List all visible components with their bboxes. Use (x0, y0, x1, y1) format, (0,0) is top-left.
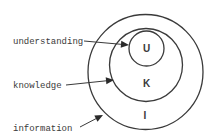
arrow-understanding-head-icon (121, 41, 129, 48)
label-information: information (13, 124, 72, 134)
label-knowledge-group: knowledge (13, 77, 114, 91)
circle-knowledge (110, 29, 183, 102)
letter-understanding: U (143, 43, 150, 54)
circle-information-group: I (88, 15, 203, 130)
nested-circles-diagram: I K U understanding knowledge informatio… (0, 0, 217, 140)
arrow-knowledge-line (66, 81, 108, 85)
label-understanding: understanding (13, 37, 83, 47)
circle-understanding-group: U (129, 31, 164, 66)
label-information-group: information (13, 115, 103, 134)
circle-knowledge-group: K (110, 29, 183, 102)
arrow-information-line (80, 118, 98, 127)
label-knowledge: knowledge (13, 81, 62, 91)
letter-information: I (144, 110, 147, 121)
label-understanding-group: understanding (13, 37, 129, 48)
letter-knowledge: K (143, 78, 151, 89)
